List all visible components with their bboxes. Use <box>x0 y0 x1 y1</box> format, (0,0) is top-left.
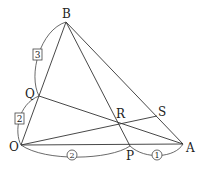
ratio-label-BQ: 3 <box>35 50 41 60</box>
segment-AB <box>66 22 183 144</box>
segment-BP <box>66 22 130 146</box>
segment-OB <box>21 22 66 145</box>
point-label-B: B <box>62 7 71 21</box>
point-label-P: P <box>126 149 134 163</box>
point-label-Q: Q <box>25 87 35 101</box>
ratio-label-PA: 1 <box>154 151 159 160</box>
point-label-A: A <box>185 141 195 155</box>
ratio-label-OP: 2 <box>69 151 74 160</box>
segment-OA <box>21 144 183 145</box>
point-label-R: R <box>116 107 126 121</box>
segment-OS <box>21 116 157 145</box>
point-label-O: O <box>9 140 19 154</box>
ratio-label-QO: 2 <box>17 114 23 124</box>
geometry-diagram: 3 2 2 1 B Q O P A R S <box>0 0 205 169</box>
point-label-S: S <box>158 105 166 119</box>
